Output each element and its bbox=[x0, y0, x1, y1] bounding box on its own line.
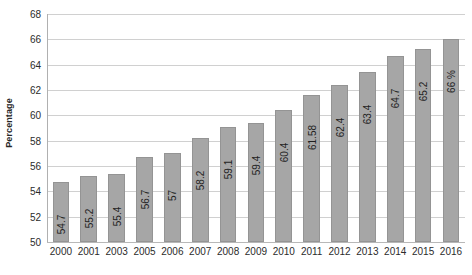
x-tick-label: 2012 bbox=[326, 246, 354, 266]
bar-value-label: 64.7 bbox=[390, 89, 401, 108]
x-tick-label: 2000 bbox=[47, 246, 75, 266]
bar-value-label: 60.4 bbox=[278, 143, 289, 162]
bar[interactable]: 59.1 bbox=[220, 127, 237, 242]
bar-slot: 54.7 bbox=[47, 14, 75, 242]
bar-slot: 59.4 bbox=[242, 14, 270, 242]
bar-value-label: 65.2 bbox=[418, 82, 429, 101]
bar-value-label: 59.1 bbox=[223, 160, 234, 179]
bar-value-label: 61.58 bbox=[306, 125, 317, 150]
x-tick-label: 2008 bbox=[214, 246, 242, 266]
bar-value-label: 54.7 bbox=[55, 215, 66, 234]
y-tick-label: 56 bbox=[30, 161, 41, 172]
bar-slot: 60.4 bbox=[270, 14, 298, 242]
bar[interactable]: 54.7 bbox=[53, 182, 70, 242]
bar-slot: 66 % bbox=[437, 14, 465, 242]
bar-slot: 56.7 bbox=[131, 14, 159, 242]
y-tick-label: 60 bbox=[30, 110, 41, 121]
y-axis-title-label: Percentage bbox=[4, 98, 14, 148]
bar-value-label: 56.7 bbox=[139, 190, 150, 209]
y-tick-label: 64 bbox=[30, 59, 41, 70]
y-axis-tick-labels: 68666462605856545250 bbox=[18, 14, 44, 242]
bar-slot: 57 bbox=[158, 14, 186, 242]
x-tick-label: 2005 bbox=[131, 246, 159, 266]
y-tick-label: 54 bbox=[30, 186, 41, 197]
x-tick-label: 2013 bbox=[353, 246, 381, 266]
bar-value-label: 63.4 bbox=[362, 105, 373, 124]
plot-area: 54.755.255.456.75758.259.159.460.461.586… bbox=[47, 14, 465, 242]
bar-slot: 64.7 bbox=[381, 14, 409, 242]
bar-slot: 55.2 bbox=[75, 14, 103, 242]
bar-slot: 62.4 bbox=[326, 14, 354, 242]
y-tick-label: 58 bbox=[30, 135, 41, 146]
bar-value-label: 57 bbox=[167, 190, 178, 201]
bar-chart: Percentage 68666462605856545250 54.755.2… bbox=[0, 0, 472, 275]
gridline bbox=[47, 242, 465, 243]
bar-slot: 61.58 bbox=[298, 14, 326, 242]
bar[interactable]: 58.2 bbox=[192, 138, 209, 242]
y-tick-label: 50 bbox=[30, 237, 41, 248]
bar[interactable]: 61.58 bbox=[303, 95, 320, 242]
bar[interactable]: 59.4 bbox=[248, 123, 265, 242]
x-tick-label: 2011 bbox=[298, 246, 326, 266]
bar[interactable]: 63.4 bbox=[359, 72, 376, 242]
bar-slot: 58.2 bbox=[186, 14, 214, 242]
bar-slot: 59.1 bbox=[214, 14, 242, 242]
bar-slot: 65.2 bbox=[409, 14, 437, 242]
x-tick-label: 2016 bbox=[437, 246, 465, 266]
y-tick-label: 66 bbox=[30, 34, 41, 45]
bar-value-label: 62.4 bbox=[334, 118, 345, 137]
bar[interactable]: 55.4 bbox=[108, 174, 125, 242]
bar[interactable]: 57 bbox=[164, 153, 181, 242]
bar-value-label: 59.4 bbox=[250, 156, 261, 175]
bar[interactable]: 65.2 bbox=[415, 49, 432, 242]
x-tick-label: 2009 bbox=[242, 246, 270, 266]
y-tick-label: 62 bbox=[30, 85, 41, 96]
bar[interactable]: 55.2 bbox=[80, 176, 97, 242]
y-tick-label: 52 bbox=[30, 211, 41, 222]
y-tick-label: 68 bbox=[30, 9, 41, 20]
bar[interactable]: 62.4 bbox=[331, 85, 348, 242]
bar[interactable]: 66 % bbox=[443, 39, 460, 242]
bar[interactable]: 64.7 bbox=[387, 56, 404, 242]
bar-series: 54.755.255.456.75758.259.159.460.461.586… bbox=[47, 14, 465, 242]
bar-value-label: 55.4 bbox=[111, 206, 122, 225]
y-axis-title: Percentage bbox=[0, 0, 18, 246]
x-tick-label: 2006 bbox=[158, 246, 186, 266]
bar[interactable]: 56.7 bbox=[136, 157, 153, 242]
x-tick-label: 2001 bbox=[75, 246, 103, 266]
bar[interactable]: 60.4 bbox=[275, 110, 292, 242]
bar-slot: 55.4 bbox=[103, 14, 131, 242]
bar-value-label: 58.2 bbox=[195, 171, 206, 190]
x-tick-label: 2010 bbox=[270, 246, 298, 266]
bar-value-label: 55.2 bbox=[83, 209, 94, 228]
bar-slot: 63.4 bbox=[353, 14, 381, 242]
x-tick-label: 2003 bbox=[103, 246, 131, 266]
x-axis-tick-labels: 2000200120032005200620072008200920102011… bbox=[47, 246, 465, 266]
x-tick-label: 2014 bbox=[381, 246, 409, 266]
bar-value-label: 66 % bbox=[445, 70, 456, 93]
x-tick-label: 2007 bbox=[186, 246, 214, 266]
x-tick-label: 2015 bbox=[409, 246, 437, 266]
